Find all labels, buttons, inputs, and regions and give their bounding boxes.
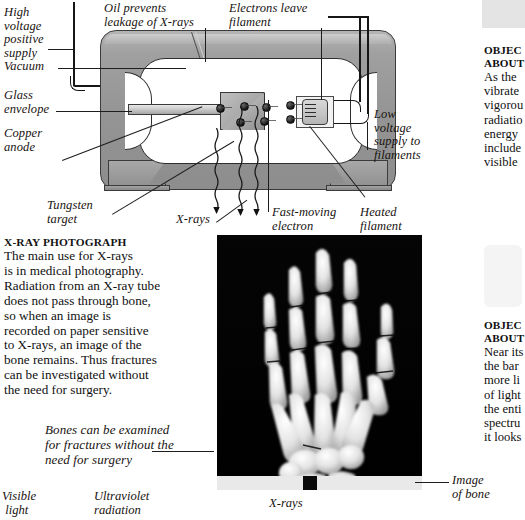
- filament-coil-2: [305, 108, 316, 109]
- x-ray-wave-arrow: [212, 128, 219, 214]
- article-body: The main use for X-rays is in medical ph…: [4, 249, 212, 398]
- sidebar-bottom-heading-line2: ABOUT: [484, 332, 524, 344]
- lv-wire-top: [328, 16, 368, 18]
- label-tungsten-target: Tungsten target: [47, 199, 93, 226]
- electron-dot: [216, 104, 225, 113]
- label-visible-light: Visible light: [2, 489, 36, 517]
- label-x-rays-spectrum: X-rays: [269, 496, 303, 510]
- label-copper-anode: Copper anode: [4, 127, 42, 154]
- leader-vacuum: [58, 68, 186, 69]
- electron-dot: [286, 115, 295, 124]
- x-ray-tube-diagram: High voltage positive supply Vacuum Glas…: [0, 0, 470, 232]
- housing-highlight: [104, 34, 392, 44]
- page-root: High voltage positive supply Vacuum Glas…: [0, 0, 525, 520]
- hv-wire-vertical: [73, 2, 75, 86]
- leader-high-voltage: [48, 49, 74, 50]
- sidebar-bottom-image-box: [484, 245, 522, 307]
- right-sidebar-column: OBJEC ABOUT As the vibrate vigorou radia…: [482, 0, 525, 520]
- filament-coil-3: [305, 112, 316, 113]
- label-fast-moving-electron: Fast-moving electron: [272, 206, 336, 233]
- label-high-voltage-supply: High voltage positive supply: [4, 6, 44, 60]
- electron-dot: [286, 101, 295, 110]
- electron-dot: [262, 103, 271, 112]
- label-electrons-leave-filament: Electrons leave filament: [229, 2, 307, 29]
- copper-anode-rod: [128, 104, 224, 115]
- x-ray-photograph-of-hand: [217, 235, 422, 490]
- leader-electrons-leave: [321, 28, 322, 100]
- lv-lead-lower: [334, 112, 369, 124]
- label-heated-filament: Heated filament: [360, 206, 402, 233]
- leader-low-voltage: [367, 122, 368, 150]
- label-low-voltage-supply: Low voltage supply to filaments: [374, 108, 421, 162]
- electron-trail: [268, 106, 278, 107]
- sidebar-top-heading-line2: ABOUT: [484, 57, 524, 69]
- label-ultraviolet-radiation: Ultraviolet radiation: [94, 489, 149, 517]
- x-ray-photograph-article: X-RAY PHOTOGRAPH The main use for X-rays…: [4, 236, 212, 398]
- lv-wire-b: [367, 16, 369, 114]
- lv-wire-a: [359, 16, 361, 102]
- filament-coil-1: [305, 104, 316, 105]
- sidebar-bottom-heading-line1: OBJEC: [484, 319, 522, 331]
- filament-coil-4: [305, 116, 316, 117]
- leader-image-of-bone: [415, 482, 449, 483]
- leader-glass-envelope: [56, 111, 132, 112]
- x-ray-wave-arrow: [236, 106, 243, 216]
- lv-lead-upper: [334, 100, 361, 112]
- label-oil-prevents-leakage: Oil prevents leakage of X-rays: [104, 2, 194, 29]
- electron-trail: [292, 118, 302, 119]
- sidebar-top-body: As the vibrate vigorou radiatio energy i…: [484, 70, 523, 169]
- article-heading: X-RAY PHOTOGRAPH: [4, 236, 212, 248]
- sidebar-top-image-box: [482, 0, 525, 28]
- label-vacuum: Vacuum: [4, 60, 44, 74]
- hv-wire-corner: [70, 76, 85, 91]
- sidebar-top-heading-line1: OBJEC: [484, 44, 522, 56]
- x-ray-label-rule: [268, 100, 269, 212]
- photo-caption: Bones can be examined for fractures with…: [45, 422, 174, 467]
- label-glass-envelope: Glass envelope: [4, 89, 49, 116]
- hand-bones-svg: [217, 235, 422, 490]
- sidebar-bottom-body: Near its the bar more li of light the en…: [484, 345, 524, 444]
- x-ray-wave-arrow: [252, 106, 259, 216]
- electron-trail: [222, 107, 232, 108]
- leader-photo-caption: [152, 451, 214, 452]
- label-x-rays-diagram: X-rays: [176, 213, 210, 227]
- leader-oil: [205, 28, 206, 62]
- electron-trail: [292, 104, 302, 105]
